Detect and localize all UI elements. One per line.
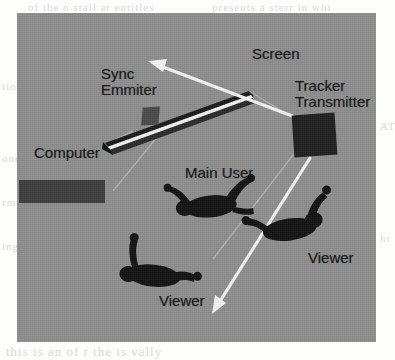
label-sync-emitter: Sync Emmiter [101,66,157,98]
label-tracker-transmitter: Tracker Transmitter [295,78,370,110]
viewer-left-figure [118,232,205,292]
page-bleed-text-right-1: AT [380,120,395,132]
page-bleed-text-bottom: this is an of r the is vally [6,344,162,360]
viewer-left-arm-up [127,239,142,268]
screen-underside [109,98,255,155]
diagram-panel: Sync Emmiter Screen Tracker Transmitter … [17,13,376,342]
label-viewer-right: Viewer [308,250,354,266]
page-bleed-text-top-right: presents a sterr in whi [212,1,332,13]
label-computer: Computer [34,145,100,161]
page-bleed-text-top-left: of the o stall ar entitles [28,1,155,13]
screen-shape [102,91,255,155]
main-user-figure [163,174,259,224]
label-viewer-left: Viewer [159,293,205,309]
label-main-user: Main User [185,165,253,181]
page-bleed-text-right-2: hr [380,232,391,244]
label-screen: Screen [252,46,300,62]
tracker-transmitter-block [292,113,338,158]
computer-block [19,180,105,203]
sync-emitter-block [141,106,160,125]
